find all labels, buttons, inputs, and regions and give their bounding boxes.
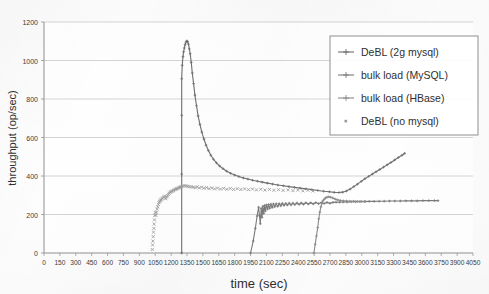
y-tick-label: 400 bbox=[26, 173, 38, 180]
x-tick-label: 1800 bbox=[227, 259, 242, 266]
x-tick-label: 3000 bbox=[354, 259, 369, 266]
x-tick-label: 300 bbox=[70, 259, 81, 266]
y-tick-label: 0 bbox=[34, 250, 38, 257]
legend-entry-label: bulk load (HBase) bbox=[361, 92, 444, 104]
y-tick-label: 1200 bbox=[22, 19, 38, 26]
y-tick-label: 800 bbox=[26, 96, 38, 103]
x-tick-label: 3450 bbox=[402, 259, 417, 266]
x-tick-label: 3900 bbox=[450, 259, 465, 266]
x-tick-label: 2250 bbox=[275, 259, 290, 266]
x-tick-label: 1050 bbox=[148, 259, 163, 266]
y-tick-label: 1000 bbox=[22, 58, 38, 65]
y-axis-tick-labels: 020040060080010001200 bbox=[22, 19, 44, 257]
legend-entry-label: DeBL (2g mysql) bbox=[361, 46, 439, 58]
legend-entry-label: bulk load (MySQL) bbox=[361, 69, 448, 81]
x-tick-label: 750 bbox=[118, 259, 129, 266]
x-tick-label: 2700 bbox=[323, 259, 338, 266]
chart-legend: DeBL (2g mysql)bulk load (MySQL)bulk loa… bbox=[330, 36, 478, 135]
y-tick-label: 200 bbox=[26, 212, 38, 219]
x-tick-label: 1200 bbox=[164, 259, 179, 266]
x-tick-label: 900 bbox=[134, 259, 145, 266]
throughput-vs-time-chart: 0150300450600750900105012001350150016501… bbox=[0, 0, 489, 294]
x-tick-label: 600 bbox=[102, 259, 113, 266]
legend-entry-label: DeBL (no mysql) bbox=[361, 115, 439, 127]
x-tick-label: 150 bbox=[54, 259, 65, 266]
x-tick-label: 1500 bbox=[196, 259, 211, 266]
x-tick-label: 3600 bbox=[418, 259, 433, 266]
x-tick-label: 1950 bbox=[243, 259, 258, 266]
x-tick-label: 2850 bbox=[339, 259, 354, 266]
y-tick-label: 600 bbox=[26, 135, 38, 142]
x-tick-label: 3300 bbox=[386, 259, 401, 266]
x-tick-label: 3750 bbox=[434, 259, 449, 266]
x-tick-label: 3150 bbox=[370, 259, 385, 266]
x-tick-label: 1350 bbox=[180, 259, 195, 266]
x-axis-tick-labels: 0150300450600750900105012001350150016501… bbox=[42, 253, 481, 266]
x-tick-label: 1650 bbox=[211, 259, 226, 266]
legend-dot-marker-icon bbox=[345, 120, 348, 123]
x-tick-label: 2550 bbox=[307, 259, 322, 266]
x-axis-title: time (sec) bbox=[230, 276, 287, 291]
x-tick-label: 450 bbox=[86, 259, 97, 266]
y-axis-title: throughput (op/sec) bbox=[6, 90, 18, 185]
x-tick-label: 4050 bbox=[466, 259, 481, 266]
x-tick-label: 0 bbox=[42, 259, 46, 266]
x-tick-label: 2100 bbox=[259, 259, 274, 266]
x-tick-label: 2400 bbox=[291, 259, 306, 266]
chart-figure: 0150300450600750900105012001350150016501… bbox=[0, 0, 489, 294]
